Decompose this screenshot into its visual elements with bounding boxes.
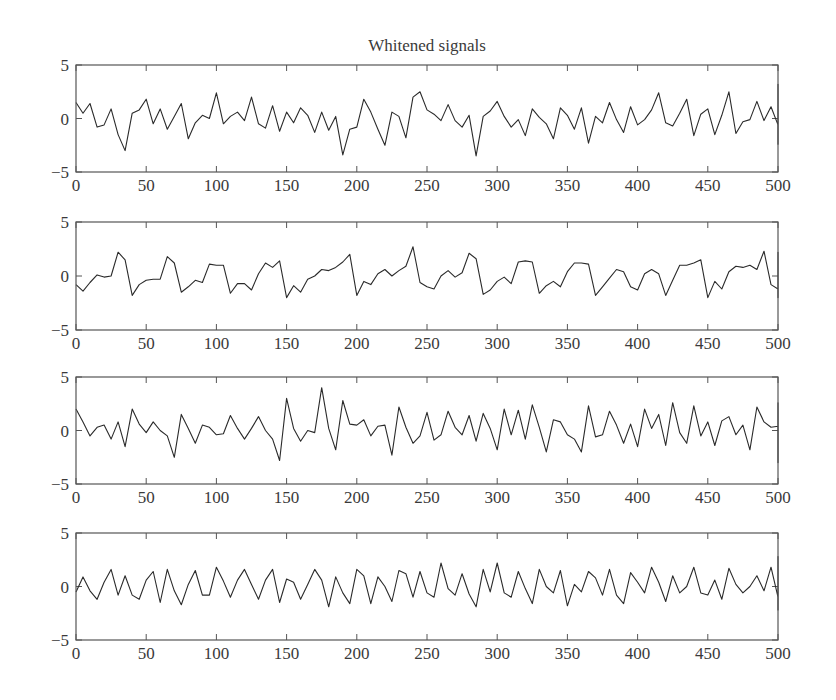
x-tick-label: 300 [484,488,510,507]
x-tick-label: 200 [344,176,370,195]
x-tick-label: 350 [555,488,581,507]
x-tick-label: 350 [555,176,581,195]
x-tick-label: 500 [765,488,791,507]
x-tick-label: 250 [414,488,440,507]
y-tick-label: 5 [61,56,70,75]
x-tick-label: 300 [484,644,510,663]
signal-line-1 [76,84,778,156]
x-tick-label: 400 [625,176,651,195]
x-tick-label: 150 [274,488,300,507]
chart-title: Whitened signals [0,36,836,56]
signal-line-3 [76,388,778,463]
x-tick-label: 0 [72,334,81,353]
y-tick-label: 5 [61,524,70,543]
x-tick-label: 100 [204,176,230,195]
y-tick-label: 0 [61,110,70,129]
x-tick-label: 400 [625,334,651,353]
plots-canvas: −505050100150200250300350400450500−50505… [0,0,836,700]
x-tick-label: 0 [72,644,81,663]
y-tick-label: 0 [61,267,70,286]
signal-line-4 [76,557,778,611]
x-tick-label: 100 [204,488,230,507]
x-tick-label: 200 [344,488,370,507]
x-tick-label: 500 [765,176,791,195]
subplot-1: −505050100150200250300350400450500 [51,56,791,195]
x-tick-label: 500 [765,644,791,663]
y-tick-label: 0 [61,578,70,597]
y-tick-label: 0 [61,422,70,441]
x-tick-label: 100 [204,644,230,663]
x-tick-label: 50 [138,644,155,663]
x-tick-label: 350 [555,644,581,663]
x-tick-label: 150 [274,334,300,353]
x-tick-label: 0 [72,176,81,195]
subplot-4: −505050100150200250300350400450500 [51,524,791,663]
x-tick-label: 50 [138,176,155,195]
x-tick-label: 150 [274,176,300,195]
signal-line-2 [76,247,778,298]
x-tick-label: 300 [484,176,510,195]
subplot-3: −505050100150200250300350400450500 [51,368,791,507]
y-tick-label: −5 [51,321,69,340]
axes-box [76,377,778,484]
x-tick-label: 450 [695,334,721,353]
x-tick-label: 450 [695,644,721,663]
figure: Whitened signals −5050501001502002503003… [0,0,836,700]
y-tick-label: −5 [51,163,69,182]
x-tick-label: 300 [484,334,510,353]
axes-box [76,533,778,640]
x-tick-label: 250 [414,644,440,663]
subplot-2: −505050100150200250300350400450500 [51,213,791,353]
x-tick-label: 250 [414,176,440,195]
x-tick-label: 450 [695,176,721,195]
x-tick-label: 400 [625,488,651,507]
x-tick-label: 250 [414,334,440,353]
x-tick-label: 200 [344,334,370,353]
axes-box [76,222,778,330]
x-tick-label: 50 [138,334,155,353]
x-tick-label: 200 [344,644,370,663]
x-tick-label: 0 [72,488,81,507]
x-tick-label: 450 [695,488,721,507]
x-tick-label: 400 [625,644,651,663]
y-tick-label: 5 [61,213,70,232]
axes-box [76,65,778,172]
x-tick-label: 100 [204,334,230,353]
y-tick-label: −5 [51,631,69,650]
x-tick-label: 500 [765,334,791,353]
y-tick-label: −5 [51,475,69,494]
x-tick-label: 150 [274,644,300,663]
x-tick-label: 50 [138,488,155,507]
x-tick-label: 350 [555,334,581,353]
y-tick-label: 5 [61,368,70,387]
